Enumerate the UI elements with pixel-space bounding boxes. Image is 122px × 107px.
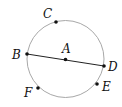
point-d: D (102, 60, 118, 74)
point-e-label: E (101, 80, 111, 94)
point-e-dot (95, 82, 99, 86)
point-c: C (43, 7, 58, 24)
point-c-dot (54, 20, 58, 24)
point-d-dot (102, 64, 106, 68)
point-c-label: C (43, 7, 52, 21)
point-f-dot (36, 86, 40, 90)
point-b: B (11, 48, 29, 62)
point-a-dot (64, 58, 68, 62)
point-b-label: B (11, 48, 21, 62)
circle-diagram: A B C D E F (0, 0, 122, 107)
point-a-label: A (61, 42, 71, 56)
point-a: A (61, 42, 71, 61)
point-d-label: D (107, 60, 118, 74)
point-f-label: F (23, 86, 33, 100)
point-e: E (95, 80, 111, 94)
point-f: F (23, 86, 40, 100)
point-b-dot (25, 52, 29, 56)
